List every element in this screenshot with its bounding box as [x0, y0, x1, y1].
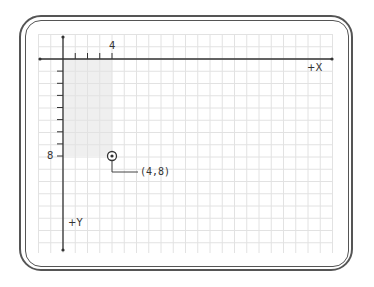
y-tick-label: 8: [47, 151, 53, 161]
y-axis-top-end: [61, 35, 64, 38]
x-ticks: [75, 53, 112, 59]
y-axis-label: +Y: [68, 218, 83, 228]
point-label: (4,8): [140, 167, 170, 177]
point-marker-dot: [110, 154, 113, 157]
x-axis-left-end: [38, 57, 41, 60]
coordinate-plane: [0, 0, 374, 287]
y-axis-bottom-end: [61, 248, 64, 251]
x-axis-right-end: [330, 57, 333, 60]
x-axis-label: +X: [307, 63, 322, 73]
x-tick-label: 4: [109, 41, 115, 51]
point-leader-line: [112, 161, 138, 172]
